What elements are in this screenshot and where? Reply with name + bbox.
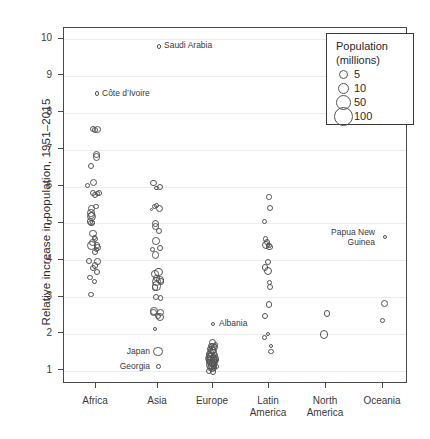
annotation-japan: Japan [127,347,150,357]
data-point [380,318,385,323]
x-tick-mark-europe [212,383,213,388]
y-tick-mark-9 [58,74,63,75]
legend-marker-box [336,70,350,79]
data-point [266,332,271,337]
data-point [94,269,100,275]
y-tick-label-8: 8 [0,106,52,117]
legend-circle-icon [338,83,349,94]
y-tick-mark-2 [58,332,63,333]
gridline-2 [64,334,406,335]
data-point [268,349,274,355]
legend-label: 100 [354,110,372,122]
legend-circle-icon [339,70,348,79]
legend-marker-box [336,83,350,94]
data-point [267,205,273,211]
legend-label: 5 [354,68,360,80]
x-tick-mark-africa [95,383,96,388]
annotation-georgia: Georgia [120,362,150,372]
data-point [152,237,160,245]
data-point [266,194,272,200]
data-point [157,245,163,251]
legend-marker-box [336,107,350,126]
data-point [90,220,95,225]
data-point [88,292,94,298]
y-tick-mark-6 [58,185,63,186]
data-point [157,44,162,49]
data-point [267,284,273,290]
y-tick-mark-4 [58,259,63,260]
data-point [383,235,387,239]
y-axis-label: Relative increase in population, 1951–20… [40,32,52,392]
x-tick-label-oceania: Oceania [342,395,422,407]
data-point [152,284,158,290]
data-point [154,268,162,276]
gridline-1 [64,371,406,372]
data-point [156,364,161,369]
data-point [90,179,97,186]
y-tick-mark-7 [58,148,63,149]
chart-screenshot: Relative increase in population, 1951–20… [0,0,430,439]
x-tick-mark-latin-america [268,383,269,388]
gridline-6 [64,187,406,188]
data-point [88,163,94,169]
legend-title-line1: Population [336,40,413,54]
data-point [156,228,162,234]
y-tick-label-4: 4 [0,253,52,264]
data-point [381,300,388,307]
gridline-3 [64,297,406,298]
data-point [320,330,328,338]
y-tick-label-1: 1 [0,364,52,375]
data-point [265,259,271,265]
data-point [96,190,102,196]
annotation-c-te-d-ivoire: Côte d’Ivoire [102,89,150,99]
legend-label: 10 [354,82,366,94]
legend-circle-icon [334,107,353,126]
data-point [94,258,100,264]
y-tick-mark-10 [58,38,63,39]
data-point [153,347,162,356]
legend-entry-10: 10 [336,81,413,95]
data-point [156,205,163,212]
data-point [153,327,157,331]
data-point [92,279,97,284]
annotation-papua-new-guinea: Papua NewGuinea [331,228,375,247]
x-tick-mark-oceania [382,383,383,388]
y-tick-mark-8 [58,111,63,112]
y-tick-mark-5 [58,222,63,223]
legend-entries: 51050100 [336,67,413,123]
x-tick-mark-north-america [325,383,326,388]
size-legend: Population (millions) 51050100 [326,33,414,125]
gridline-4 [64,260,406,261]
annotation-albania: Albania [219,319,247,329]
y-tick-label-9: 9 [0,69,52,80]
data-point [262,313,268,319]
data-point [152,251,159,258]
y-tick-label-5: 5 [0,216,52,227]
data-point [266,301,273,308]
data-point [95,91,100,96]
data-point [266,243,272,249]
data-point [158,295,164,301]
legend-label: 50 [354,96,366,108]
data-point [94,247,99,252]
y-tick-mark-3 [58,296,63,297]
x-tick-mark-asia [157,383,158,388]
data-point [264,267,272,275]
legend-title-line2: (millions) [336,54,413,68]
legend-entry-5: 5 [336,67,413,81]
data-point [262,335,267,340]
y-tick-mark-1 [58,369,63,370]
y-tick-label-6: 6 [0,179,52,190]
data-point [211,322,215,326]
data-point [324,310,330,316]
gridline-5 [64,223,406,224]
data-point [158,278,164,284]
data-point [269,344,273,348]
y-tick-label-10: 10 [0,32,52,43]
annotation-saudi-arabia: Saudi Arabia [164,41,212,51]
data-point [94,126,101,133]
y-tick-label-2: 2 [0,327,52,338]
data-point [157,184,163,190]
y-tick-label-7: 7 [0,143,52,154]
legend-entry-100: 100 [336,109,413,123]
